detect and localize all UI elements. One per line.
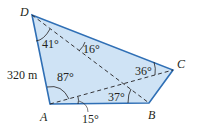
vertex-label-c: C xyxy=(177,57,186,71)
angle-label-36: 36° xyxy=(135,64,152,78)
angle-label-15: 15° xyxy=(82,112,99,126)
vertex-label-d: D xyxy=(19,5,29,19)
angle-label-87: 87° xyxy=(57,70,74,84)
vertex-label-b: B xyxy=(148,108,156,122)
angle-label-41: 41° xyxy=(42,37,59,51)
quadrilateral-diagram: D C A B 320 m 41° 16° 36° 87° 15° 37° xyxy=(0,0,197,133)
side-label-ad: 320 m xyxy=(7,68,38,82)
angle-label-37: 37° xyxy=(108,90,125,104)
vertex-label-a: A xyxy=(39,110,48,124)
quadrilateral-abcd xyxy=(32,15,173,104)
angle-label-16: 16° xyxy=(83,42,100,56)
